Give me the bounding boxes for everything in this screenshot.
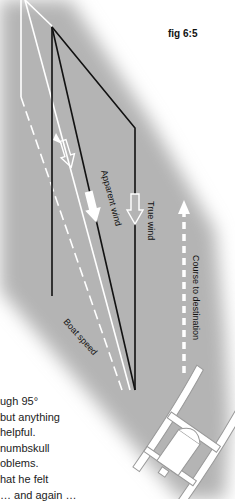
text-line: but anything: [0, 410, 76, 426]
true-wind-label: True wind: [146, 201, 156, 240]
text-line: hat he felt: [0, 472, 76, 488]
course-label: Course to destination: [191, 255, 201, 340]
text-line: … and again …: [0, 488, 76, 503]
body-text: ugh 95° but anything helpful. numbskull …: [0, 394, 76, 503]
text-line: oblems.: [0, 456, 76, 472]
figure-label: fig 6:5: [168, 28, 197, 39]
text-line: helpful.: [0, 425, 76, 441]
text-line: ugh 95°: [0, 394, 76, 410]
text-line: numbskull: [0, 441, 76, 457]
